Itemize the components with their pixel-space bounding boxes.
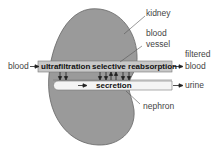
process-selective-reabsorption: selective reabsorption bbox=[92, 62, 177, 71]
label-blood-in: blood bbox=[8, 62, 29, 71]
label-urine: urine bbox=[185, 81, 204, 90]
process-ultrafiltration: ultrafiltration bbox=[41, 62, 90, 71]
label-blood-vessel-2: vessel bbox=[146, 40, 170, 49]
label-blood-vessel-1: blood bbox=[146, 29, 167, 38]
label-kidney: kidney bbox=[146, 9, 171, 18]
label-filtered-2: blood bbox=[185, 62, 206, 71]
label-filtered-1: filtered bbox=[185, 50, 211, 59]
process-secretion: secretion bbox=[96, 81, 132, 90]
kidney-diagram bbox=[0, 0, 222, 154]
label-nephron: nephron bbox=[143, 102, 174, 111]
